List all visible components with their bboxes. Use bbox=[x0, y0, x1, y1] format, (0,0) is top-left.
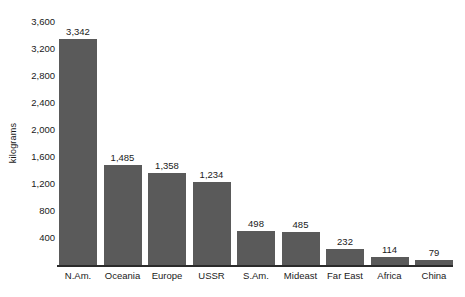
bar-group: 498S.Am. bbox=[237, 0, 275, 265]
bar-value-label: 1,234 bbox=[184, 169, 240, 180]
bar-chart: kilograms 3,6003,2002,8002,4002,0001,600… bbox=[0, 0, 465, 297]
y-tick-2800: 2,800 bbox=[0, 71, 55, 81]
bar-value-label: 485 bbox=[273, 219, 329, 230]
x-axis-category-label: China bbox=[403, 270, 465, 281]
bar-value-label: 79 bbox=[406, 247, 462, 258]
bar-value-label: 3,342 bbox=[50, 26, 106, 37]
y-tick-1600: 1,600 bbox=[0, 152, 55, 162]
y-tick-400: 400 bbox=[0, 233, 55, 243]
bar-series: 3,342N.Am.1,485Oceania1,358Europe1,234US… bbox=[59, 0, 455, 265]
bar-group: 232Far East bbox=[326, 0, 364, 265]
bar-group: 485Mideast bbox=[282, 0, 320, 265]
y-tick-800: 800 bbox=[0, 206, 55, 216]
y-tick-3600: 3,600 bbox=[0, 17, 55, 27]
bar-group: 1,358Europe bbox=[148, 0, 186, 265]
y-tick-2400: 2,400 bbox=[0, 98, 55, 108]
bar bbox=[59, 39, 97, 265]
bar-group: 79China bbox=[415, 0, 453, 265]
y-axis-tick-labels: 3,6003,2002,8002,4002,0001,6001,20080040… bbox=[0, 0, 55, 297]
x-axis-baseline bbox=[57, 265, 453, 267]
bar bbox=[371, 257, 409, 265]
y-tick-1200: 1,200 bbox=[0, 179, 55, 189]
bar bbox=[148, 173, 186, 265]
bar bbox=[104, 165, 142, 265]
bar-group: 1,234USSR bbox=[193, 0, 231, 265]
y-tick-2000: 2,000 bbox=[0, 125, 55, 135]
plot-area: 3,342N.Am.1,485Oceania1,358Europe1,234US… bbox=[57, 0, 455, 297]
bar bbox=[193, 182, 231, 265]
bar-group: 3,342N.Am. bbox=[59, 0, 97, 265]
bar bbox=[237, 231, 275, 265]
bar bbox=[326, 249, 364, 265]
bar bbox=[282, 232, 320, 265]
bar-group: 114Africa bbox=[371, 0, 409, 265]
bar-group: 1,485Oceania bbox=[104, 0, 142, 265]
y-tick-3200: 3,200 bbox=[0, 44, 55, 54]
